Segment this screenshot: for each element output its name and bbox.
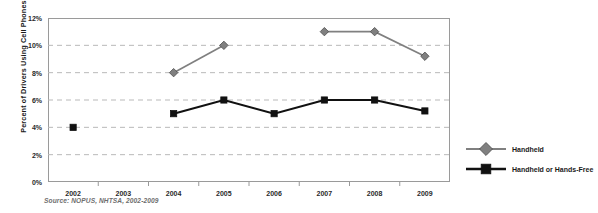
series-line <box>174 100 425 114</box>
series-line <box>174 45 224 72</box>
chart-legend: HandheldHandheld or Hands-Free <box>464 139 596 179</box>
data-point-marker-diamond <box>479 142 492 155</box>
legend-label-handheld-or-hands-free: Handheld or Hands-Free <box>512 166 593 173</box>
legend-swatch-handheld-or-hands-free-icon <box>464 161 508 177</box>
data-point-marker-square <box>221 97 227 103</box>
x-axis-tick-2006: 2006 <box>266 190 282 197</box>
y-axis-tick-8pct: 8% <box>0 69 42 76</box>
y-axis-tick-10pct: 10% <box>0 42 42 49</box>
data-point-marker-diamond <box>320 27 328 35</box>
series-handheld <box>169 27 429 76</box>
y-axis-tick-0pct: 0% <box>0 179 42 186</box>
legend-marker-icon <box>464 161 508 177</box>
y-axis-tick-6pct: 6% <box>0 97 42 104</box>
data-point-marker-diamond <box>169 68 177 76</box>
data-point-marker-square <box>372 97 378 103</box>
x-axis-tick-2003: 2003 <box>116 190 132 197</box>
x-axis-tick-2005: 2005 <box>216 190 232 197</box>
data-point-marker-square <box>481 164 491 174</box>
data-point-marker-square <box>271 111 277 117</box>
plot-canvas <box>48 18 450 182</box>
x-axis-tick-2004: 2004 <box>166 190 182 197</box>
legend-item-handheld-or-hands-free[interactable]: Handheld or Hands-Free <box>464 159 596 179</box>
data-point-marker-square <box>70 124 76 130</box>
data-point-marker-diamond <box>370 27 378 35</box>
x-axis-tick-2008: 2008 <box>367 190 383 197</box>
cell-phone-use-line-chart: Percent of Drivers Using Cell Phones 12%… <box>0 0 598 213</box>
data-point-marker-square <box>321 97 327 103</box>
source-note: Source: NOPUS, NHTSA, 2002-2009 <box>44 197 159 204</box>
y-axis-tick-4pct: 4% <box>0 124 42 131</box>
data-point-marker-square <box>422 108 428 114</box>
legend-swatch-handheld-icon <box>464 141 508 157</box>
x-axis-tick-2002: 2002 <box>65 190 81 197</box>
y-axis-tick-2pct: 2% <box>0 151 42 158</box>
data-point-marker-diamond <box>421 52 429 60</box>
x-axis-tick-2009: 2009 <box>417 190 433 197</box>
legend-marker-icon <box>464 141 508 157</box>
x-axis-tick-2007: 2007 <box>317 190 333 197</box>
y-axis-tick-12pct: 12% <box>0 15 42 22</box>
series-handheld-or-hands-free <box>70 97 428 131</box>
legend-label-handheld: Handheld <box>512 146 544 153</box>
data-point-marker-square <box>171 111 177 117</box>
legend-item-handheld[interactable]: Handheld <box>464 139 596 159</box>
data-point-marker-diamond <box>220 41 228 49</box>
